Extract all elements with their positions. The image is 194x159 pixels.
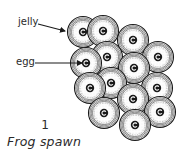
egg-nucleus-icon (86, 84, 94, 92)
spawn-egg (89, 98, 120, 129)
egg-nucleus-icon (100, 109, 108, 117)
egg-nucleus-icon (153, 84, 161, 92)
jelly-label: jelly (18, 17, 38, 27)
egg-nucleus-icon (99, 27, 107, 35)
egg-nucleus-icon (107, 79, 115, 87)
figure-caption: Frog spawn (7, 134, 81, 149)
egg-nucleus-icon (79, 28, 87, 36)
figure-number: 1 (40, 118, 50, 132)
egg-nucleus-icon (130, 64, 138, 72)
jelly-arrow-icon (38, 24, 65, 31)
egg-nucleus-icon (129, 95, 137, 103)
frog-spawn-figure: jelly egg 1 Frog spawn (0, 0, 194, 159)
egg-nucleus-icon (129, 36, 137, 44)
egg-nucleus-icon (131, 121, 139, 129)
spawn-egg (120, 110, 151, 141)
egg-nucleus-icon (156, 108, 164, 116)
egg-nucleus-icon (82, 59, 90, 67)
egg-nucleus-icon (154, 53, 162, 61)
egg-label: egg (16, 57, 35, 67)
egg-cluster (68, 16, 176, 141)
egg-nucleus-icon (103, 53, 111, 61)
